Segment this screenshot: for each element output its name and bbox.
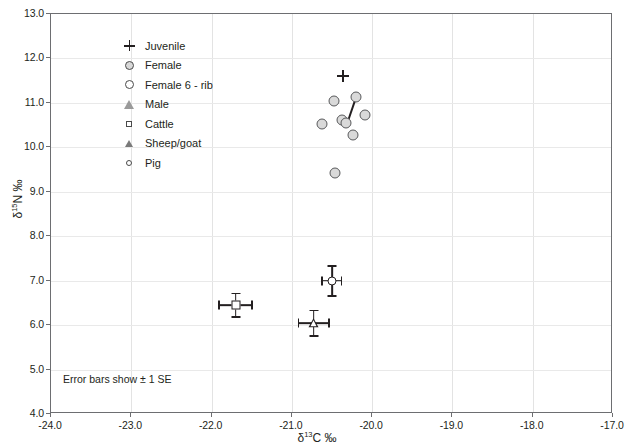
y-axis-tick: [46, 235, 50, 236]
y-axis-tick-label: 5.0: [4, 363, 44, 375]
x-axis-tick-label: -20.0: [359, 419, 382, 431]
pig-circle-marker: [327, 276, 336, 285]
error-bar-cap-right: [341, 276, 343, 285]
gridline-horizontal: [51, 370, 611, 371]
y-axis-tick: [46, 191, 50, 192]
x-axis-title: δ13C ‰: [0, 431, 634, 445]
x-axis-tick: [371, 413, 372, 417]
data-point-female: [359, 110, 370, 121]
x-axis-tick: [532, 413, 533, 417]
legend-label: Pig: [145, 157, 161, 169]
error-bar-cap-top: [327, 265, 336, 267]
data-point-female: [328, 95, 339, 106]
legend-label: Cattle: [145, 118, 174, 130]
x-axis-tick-label: -19.0: [440, 419, 463, 431]
legend-item-pig: Pig: [117, 153, 213, 173]
y-axis-tick-label: 4.0: [4, 407, 44, 419]
data-point-female: [351, 92, 362, 103]
circle-filled-marker-icon: [117, 61, 141, 70]
gridline-horizontal: [51, 236, 611, 237]
error-bar-point-sheep-goat: [294, 301, 334, 345]
y-axis-tick-label: 12.0: [4, 51, 44, 63]
legend-item-sheep-goat: Sheep/goat: [117, 134, 213, 154]
y-axis-tick: [46, 102, 50, 103]
error-bar-cap-left: [218, 301, 220, 310]
error-bar-cap-right: [251, 301, 253, 310]
gridline-vertical: [533, 14, 534, 412]
legend-label: Juvenile: [145, 40, 185, 52]
x-axis-tick-label: -24.0: [38, 419, 61, 431]
triangle-filled-marker-icon: [117, 100, 141, 109]
error-bar-cap-right: [328, 318, 330, 327]
circle-small-marker-icon: [117, 160, 141, 166]
legend-item-male: Male: [117, 95, 213, 115]
legend-label: Female 6 - rib: [145, 79, 213, 91]
data-point-female: [316, 118, 327, 129]
sheep-goat-triangle-marker: [308, 318, 319, 328]
legend-item-female: Female: [117, 56, 213, 76]
error-bar-annotation: Error bars show ± 1 SE: [63, 373, 171, 385]
y-axis-title-delta: δ: [11, 212, 25, 219]
legend-label: Male: [145, 98, 169, 110]
plus-marker-icon: [117, 40, 141, 51]
y-axis-tick: [46, 13, 50, 14]
error-bar-cap-left: [298, 318, 300, 327]
legend-item-juvenile: Juvenile: [117, 36, 213, 56]
y-axis-tick: [46, 146, 50, 147]
x-axis-tick: [130, 413, 131, 417]
y-axis-tick-label: 13.0: [4, 7, 44, 19]
gridline-vertical: [452, 14, 453, 412]
circle-open-marker-icon: [117, 80, 141, 89]
y-axis-tick-label: 11.0: [4, 96, 44, 108]
y-axis-tick: [46, 280, 50, 281]
error-bar-point-cattle: [216, 285, 256, 325]
error-bar-cap-bottom: [327, 295, 336, 297]
y-axis-tick: [46, 369, 50, 370]
x-axis-tick-label: -17.0: [600, 419, 623, 431]
x-axis-title-element: C ‰: [313, 431, 337, 445]
error-bar-cap-top: [231, 293, 240, 295]
error-bar-point-pig: [312, 257, 352, 305]
x-axis-tick: [50, 413, 51, 417]
y-axis-tick: [46, 57, 50, 58]
x-axis-tick: [451, 413, 452, 417]
square-small-marker-icon: [117, 121, 141, 127]
x-axis-title-superscript: 13: [304, 430, 312, 439]
error-bar-cap-bottom: [231, 316, 240, 318]
x-axis-tick: [211, 413, 212, 417]
x-axis-tick: [291, 413, 292, 417]
data-point-female: [329, 168, 340, 179]
y-axis-tick-label: 7.0: [4, 274, 44, 286]
error-bar-cap-top: [309, 310, 318, 312]
gridline-vertical: [372, 14, 373, 412]
data-point-female: [347, 130, 358, 141]
y-axis-tick-label: 6.0: [4, 318, 44, 330]
cattle-square-marker: [231, 301, 240, 310]
y-axis-title-element: N ‰: [11, 179, 25, 203]
x-axis-tick-label: -23.0: [119, 419, 142, 431]
triangle-small-marker-icon: [117, 140, 141, 147]
x-axis-tick-label: -22.0: [199, 419, 222, 431]
gridline-horizontal: [51, 192, 611, 193]
error-bar-cap-bottom: [309, 335, 318, 337]
error-bar-cap-left: [321, 276, 323, 285]
y-axis-title: δ15N ‰: [11, 129, 25, 269]
legend-item-cattle: Cattle: [117, 114, 213, 134]
legend-label: Sheep/goat: [145, 137, 201, 149]
y-axis-tick: [46, 324, 50, 325]
y-axis-title-superscript: 15: [10, 203, 19, 211]
x-axis-tick-label: -18.0: [520, 419, 543, 431]
y-axis-tick: [46, 413, 50, 414]
gridline-vertical: [292, 14, 293, 412]
x-axis-tick: [612, 413, 613, 417]
data-point-female: [340, 117, 351, 128]
legend-item-female-6-rib: Female 6 - rib: [117, 75, 213, 95]
plot-area: Juvenile Female Female 6 - rib Male Catt…: [50, 13, 612, 413]
legend: Juvenile Female Female 6 - rib Male Catt…: [117, 36, 213, 173]
legend-label: Female: [145, 59, 182, 71]
x-axis-tick-label: -21.0: [279, 419, 302, 431]
data-point-juvenile: [337, 70, 349, 82]
scatter-plot-figure: Juvenile Female Female 6 - rib Male Catt…: [0, 0, 634, 448]
